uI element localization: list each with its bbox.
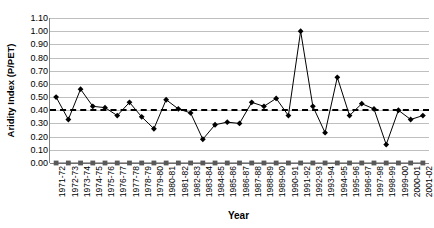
data-point-marker [65, 117, 71, 123]
data-point-marker [334, 74, 340, 80]
data-point-marker [176, 161, 181, 166]
x-axis-tick-label: 1975-76 [107, 166, 116, 197]
data-point-marker [359, 161, 364, 166]
x-axis-tick-label: 2001-02 [425, 166, 434, 197]
data-point-marker [298, 28, 304, 34]
x-axis-title: Year [49, 210, 428, 221]
data-point-marker [323, 161, 328, 166]
y-axis-tick-label: 0.10 [30, 145, 48, 154]
y-axis-tick-labels: 1.101.000.900.800.700.600.500.400.300.20… [20, 0, 48, 228]
y-axis-tick-label: 1.00 [30, 27, 48, 36]
data-point-marker [335, 161, 340, 166]
data-point-marker [127, 161, 132, 166]
x-axis-tick-label: 1981-82 [181, 166, 190, 197]
x-axis-tick-label: 1987-88 [254, 166, 263, 197]
y-axis-tick-label: 0.80 [30, 53, 48, 62]
y-axis-title: Aridity Index (P/PET) [0, 0, 22, 180]
x-axis-tick-labels: 1971-721972-731973-741974-751975-761976-… [49, 166, 428, 210]
data-point-marker [225, 161, 230, 166]
data-point-marker [164, 161, 169, 166]
data-point-marker [103, 161, 108, 166]
x-axis-tick-label: 1990-91 [291, 166, 300, 197]
data-point-marker [383, 142, 389, 148]
x-axis-tick-label: 1988-89 [266, 166, 275, 197]
x-axis-tick-label: 1972-73 [71, 166, 80, 197]
data-point-marker [139, 161, 144, 166]
data-point-marker [188, 161, 193, 166]
x-axis-tick-label: 1998-99 [388, 166, 397, 197]
x-axis-tick-label: 1985-86 [229, 166, 238, 197]
x-axis-tick-label: 1986-87 [242, 166, 251, 197]
data-point-marker [310, 161, 315, 166]
data-point-marker [66, 161, 71, 166]
data-point-marker [237, 161, 242, 166]
x-axis-tick-label: 1999-00 [401, 166, 410, 197]
data-point-marker [274, 161, 279, 166]
y-axis-tick-label: 0.60 [30, 79, 48, 88]
data-point-marker [152, 161, 157, 166]
x-axis-tick-label: 1994-95 [340, 166, 349, 197]
x-axis-tick-label: 1973-74 [83, 166, 92, 197]
data-point-marker [322, 130, 328, 136]
data-point-marker [420, 161, 425, 166]
x-axis-tick-label: 1979-80 [156, 166, 165, 197]
data-point-marker [298, 161, 303, 166]
data-point-marker [249, 99, 255, 105]
aridity-index-chart: Aridity Index (P/PET) 1.101.000.900.800.… [0, 0, 434, 228]
data-point-marker [372, 161, 377, 166]
x-axis-tick-label: 1997-98 [376, 166, 385, 197]
data-point-marker [115, 161, 120, 166]
data-point-marker [53, 94, 59, 100]
x-axis-tick-label: 1984-85 [217, 166, 226, 197]
data-point-marker [200, 161, 205, 166]
data-point-marker [262, 161, 267, 166]
x-axis-tick-label: 1977-78 [132, 166, 141, 197]
data-point-marker [90, 161, 95, 166]
x-axis-tick-label: 1982-83 [193, 166, 202, 197]
y-axis-tick-label: 0.90 [30, 40, 48, 49]
x-axis-tick-label: 2000-01 [413, 166, 422, 197]
mean-reference-line [50, 109, 429, 111]
x-axis-tick-label: 1996-97 [364, 166, 373, 197]
data-point-marker [237, 121, 243, 127]
data-point-marker [54, 161, 59, 166]
plot-area [49, 18, 429, 163]
x-axis-tick-label: 1995-96 [352, 166, 361, 197]
x-axis-tick-label: 1983-84 [205, 166, 214, 197]
x-axis-tick-label: 1978-79 [144, 166, 153, 197]
y-axis-tick-label: 0.50 [30, 93, 48, 102]
y-axis-tick-label: 0.20 [30, 132, 48, 141]
data-point-marker [249, 161, 254, 166]
x-axis-tick-label: 1974-75 [95, 166, 104, 197]
x-axis-tick-label: 1976-77 [119, 166, 128, 197]
data-point-marker [213, 161, 218, 166]
data-point-marker [78, 161, 83, 166]
data-point-marker [396, 161, 401, 166]
data-point-marker [408, 161, 413, 166]
x-axis-tick-label: 1993-94 [327, 166, 336, 197]
y-axis-tick-label: 0.40 [30, 106, 48, 115]
data-point-marker [224, 119, 230, 125]
series-layer [50, 18, 429, 163]
data-point-marker [384, 161, 389, 166]
data-point-marker [420, 113, 426, 119]
y-axis-tick-label: 0.30 [30, 119, 48, 128]
data-point-marker [347, 161, 352, 166]
y-axis-tick-label: 0.00 [30, 159, 48, 168]
x-axis-tick-label: 1991-92 [303, 166, 312, 197]
y-axis-tick-label: 1.10 [30, 14, 48, 23]
y-axis-title-text: Aridity Index (P/PET) [6, 43, 17, 137]
x-axis-tick-label: 1989-90 [278, 166, 287, 197]
series-line [56, 31, 423, 144]
x-axis-tick-label: 1980-81 [168, 166, 177, 197]
x-axis-tick-label: 1992-93 [315, 166, 324, 197]
y-axis-tick-label: 0.70 [30, 66, 48, 75]
x-axis-tick-label: 1971-72 [58, 166, 67, 197]
data-point-marker [286, 161, 291, 166]
